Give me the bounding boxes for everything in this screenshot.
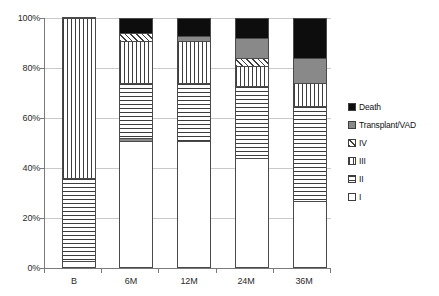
y-tick-label-20: 20% [4,214,40,223]
x-tick-label-12M: 12M [172,276,206,286]
bar-12M-seg-III [177,41,211,84]
bar-24M-seg-I [235,158,269,268]
legend-swatch-death-icon [348,103,356,111]
bar-36M[interactable] [293,18,327,268]
legend-label-iv: IV [359,139,367,148]
x-tick-label-24M: 24M [229,276,263,286]
bar-36M-seg-I [293,201,327,269]
bar-12M-seg-I [177,141,211,269]
x-tick-mark-2 [158,268,159,273]
legend-label-transplant-vad: Transplant/VAD [359,121,416,130]
legend-swatch-transplant-vad-icon [348,121,356,129]
legend-item-i[interactable]: I [348,188,438,206]
bar-24M[interactable] [235,18,269,268]
bar-6M-seg-IV [119,33,153,41]
bar-12M-seg-II [177,83,211,141]
legend-swatch-iv-icon [348,139,356,147]
legend-item-ii[interactable]: II [348,170,438,188]
x-tick-label-6M: 6M [114,276,148,286]
legend-label-ii: II [359,175,363,184]
legend-swatch-i-icon [348,193,356,201]
x-tick-label-B: B [57,276,91,286]
bar-12M-seg-death [177,18,211,36]
bar-24M-seg-death [235,18,269,38]
bar-B-seg-I [62,261,96,269]
legend-item-iii[interactable]: III [348,152,438,170]
x-tick-mark-5 [330,268,331,273]
bar-12M[interactable] [177,18,211,268]
bar-24M-seg-transplant [235,38,269,58]
x-tick-mark-1 [101,268,102,273]
bar-6M-seg-III [119,41,153,84]
bar-24M-seg-II [235,86,269,159]
x-tick-label-36M: 36M [287,276,321,286]
bar-24M-seg-III [235,66,269,86]
y-tick-label-80: 80% [4,64,40,73]
legend-item-iv[interactable]: IV [348,134,438,152]
bar-B[interactable] [62,18,96,268]
y-tick-label-40: 40% [4,164,40,173]
legend-label-iii: III [359,157,366,166]
y-tick-label-60: 60% [4,114,40,123]
bar-6M[interactable] [119,18,153,268]
bar-36M-seg-II [293,106,327,201]
legend-item-transplant-vad[interactable]: Transplant/VAD [348,116,438,134]
bar-24M-seg-IV [235,58,269,66]
bar-36M-seg-III [293,83,327,106]
legend-item-death[interactable]: Death [348,98,438,116]
bar-6M-seg-II [119,83,153,138]
x-tick-mark-4 [273,268,274,273]
legend-swatch-ii-icon [348,175,356,183]
legend-label-i: I [359,193,361,202]
bar-6M-seg-I [119,141,153,269]
bar-36M-seg-death [293,18,327,58]
y-tick-label-100: 100% [4,14,40,23]
bar-B-seg-II [62,178,96,261]
bar-36M-seg-transplant [293,58,327,83]
bar-B-seg-III [62,18,96,178]
y-tick-label-0: 0% [4,264,40,273]
x-tick-mark-0 [44,268,45,273]
legend-swatch-iii-icon [348,157,356,165]
bar-6M-seg-death [119,18,153,33]
legend-label-death: Death [359,103,381,112]
stacked-bar-chart: 100% 80% 60% 40% 20% 0% [0,0,439,296]
x-tick-mark-3 [216,268,217,273]
chart-legend: Death Transplant/VAD IV III II I [348,98,438,206]
